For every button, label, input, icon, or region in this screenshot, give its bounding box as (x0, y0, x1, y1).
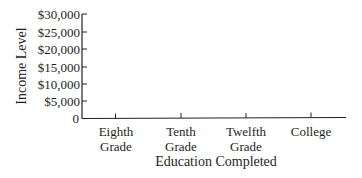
x-tick-labels: Eighth Grade Tenth Grade Twelfth Grade C… (99, 124, 332, 154)
y-tick-label: 0 (73, 111, 80, 126)
x-axis (82, 118, 346, 119)
y-ticks (82, 14, 87, 101)
y-tick-label: $5,000 (44, 94, 80, 109)
x-tick-label: Grade (100, 139, 132, 154)
x-tick-label: Grade (165, 139, 197, 154)
x-tick-label: Eighth (99, 124, 134, 139)
y-axis-label: Income Level (14, 27, 29, 104)
y-tick-label: $15,000 (38, 60, 80, 75)
x-tick-label: Twelfth (226, 124, 267, 139)
x-axis-label: Education Completed (155, 154, 277, 169)
y-tick-label: $10,000 (38, 77, 80, 92)
x-tick-label: College (291, 124, 332, 139)
y-tick-label: $20,000 (38, 42, 80, 57)
y-tick-label: $30,000 (38, 7, 80, 22)
x-tick-label: Tenth (166, 124, 196, 139)
chart: $30,000 $25,000 $20,000 $15,000 $10,000 … (0, 0, 362, 178)
y-tick-label: $25,000 (38, 25, 80, 40)
x-tick-label: Grade (230, 139, 262, 154)
y-tick-labels: $30,000 $25,000 $20,000 $15,000 $10,000 … (38, 7, 80, 126)
